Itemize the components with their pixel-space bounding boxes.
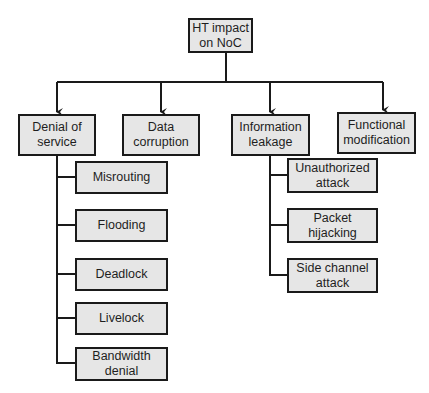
node-side-channel-attack: Side channel attack xyxy=(287,258,378,293)
node-livelock: Livelock xyxy=(75,302,168,335)
node-data-corruption: Data corruption xyxy=(122,114,200,156)
node-deadlock: Deadlock xyxy=(75,258,168,291)
node-unauthorized-attack: Unauthorized attack xyxy=(287,158,378,193)
node-misrouting: Misrouting xyxy=(75,161,168,194)
node-packet-hijacking: Packet hijacking xyxy=(287,208,378,243)
root-node: HT impact on NoC xyxy=(188,18,253,53)
node-functional-modification: Functional modification xyxy=(337,112,416,154)
node-flooding: Flooding xyxy=(75,209,168,242)
node-information-leakage: Information leakage xyxy=(231,114,310,156)
node-denial-of-service: Denial of service xyxy=(18,114,96,156)
connector-lines xyxy=(0,0,429,393)
node-bandwidth-denial: Bandwidth denial xyxy=(75,347,168,381)
